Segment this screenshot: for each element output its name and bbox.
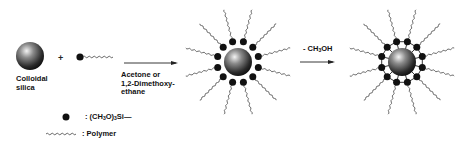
grafted-particle-intermediate [186, 10, 290, 114]
grafted-particle-condensed [350, 10, 454, 114]
reaction-arrow-2 [300, 60, 335, 64]
legend-polymer-label: : Polymer [82, 130, 116, 139]
legend-silane-prefix: : (CH [85, 112, 103, 121]
step2-suffix: OH [321, 44, 332, 53]
step1-conditions: Acetone or1,2-Dimethoxy-ethane [121, 71, 175, 97]
legend-silane-suffix: Si— [117, 112, 132, 121]
step2-prefix: - CH [303, 44, 318, 53]
step2-condition: - CH3OH [303, 45, 332, 55]
colloidal-silica-sphere [16, 42, 44, 70]
reaction-scheme: + [0, 0, 470, 144]
plus-sign: + [58, 53, 63, 63]
legend-polymer-wave-icon [46, 133, 76, 135]
legend [46, 114, 76, 135]
reaction-arrow-1 [124, 61, 178, 65]
colloidal-label-line2: silica [16, 83, 35, 92]
colloidal-silica-label: Colloidalsilica [16, 75, 48, 92]
legend-silane-label: : (CH3O)3Si— [85, 113, 131, 123]
step1-line3: ethane [121, 87, 145, 96]
legend-silane-mid: O) [106, 112, 114, 121]
silane-polymer-reagent [76, 53, 113, 60]
legend-silane-dot-icon [63, 114, 70, 121]
